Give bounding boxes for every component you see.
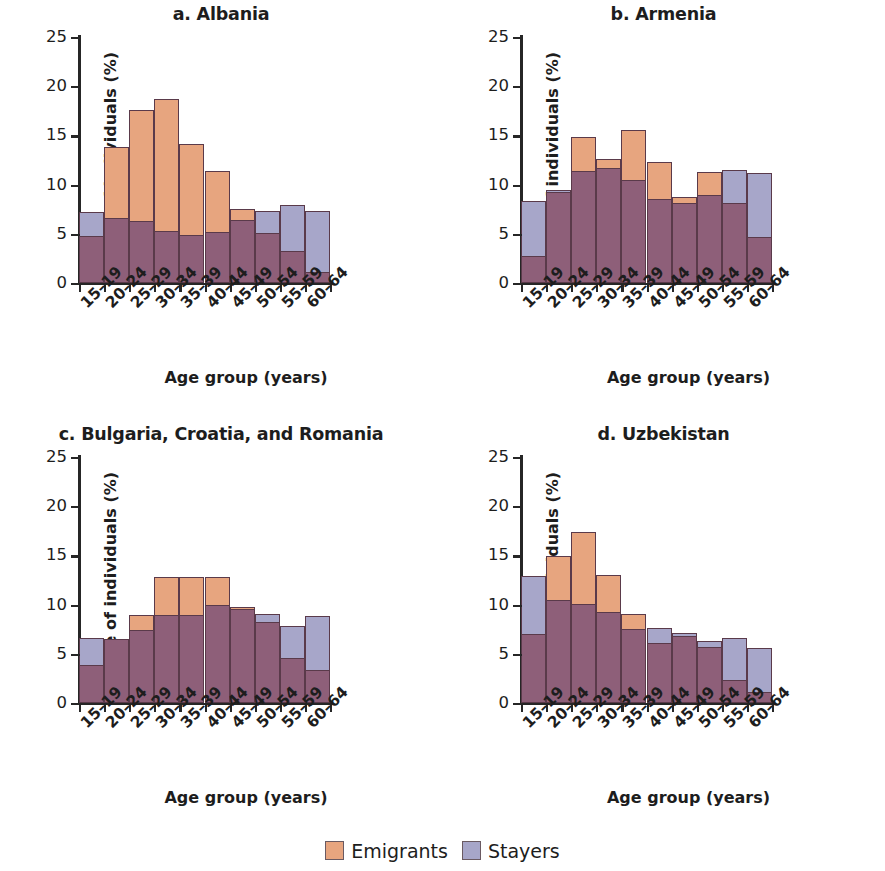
y-axis-tick xyxy=(513,185,522,187)
bars-container xyxy=(521,457,772,703)
y-axis-tick-label: 25 xyxy=(488,27,509,46)
y-axis-tick-label: 0 xyxy=(499,693,510,712)
x-axis-tick xyxy=(521,703,523,712)
panel-d: d. Uzbekistan Share of individuals (%) 0… xyxy=(442,420,885,830)
y-axis-tick xyxy=(71,555,80,557)
y-axis-tick-label: 0 xyxy=(57,693,68,712)
panel-a: a. Albania Share of individuals (%) 0510… xyxy=(0,0,442,420)
y-axis-title-wrap: Share of individuals (%) xyxy=(6,455,36,705)
legend: Emigrants Stayers xyxy=(0,830,885,871)
plot-area: 051015202515–1920–2425–2930–3435–3940–44… xyxy=(521,37,772,283)
y-axis-tick xyxy=(513,457,522,459)
legend-label-stayers: Stayers xyxy=(488,840,560,862)
legend-item-stayers: Stayers xyxy=(462,840,560,862)
x-axis-tick xyxy=(521,283,523,292)
panel-title: d. Uzbekistan xyxy=(442,424,885,444)
y-axis-title-wrap: Share of individuals (%) xyxy=(448,455,478,705)
y-axis-tick xyxy=(71,185,80,187)
y-axis-tick xyxy=(71,457,80,459)
legend-label-emigrants: Emigrants xyxy=(351,840,448,862)
bars-container xyxy=(79,37,330,283)
y-axis-tick-label: 0 xyxy=(499,273,510,292)
y-axis-tick-label: 20 xyxy=(488,496,509,515)
histogram-bar xyxy=(596,168,621,283)
x-axis-title: Age group (years) xyxy=(60,368,432,387)
y-axis-tick-label: 15 xyxy=(46,126,67,145)
x-axis-title: Age group (years) xyxy=(502,788,875,807)
legend-swatch-stayers-icon xyxy=(462,841,481,860)
y-axis-tick xyxy=(513,506,522,508)
histogram-bar xyxy=(521,634,546,703)
x-axis-tick xyxy=(79,703,81,712)
y-axis-tick xyxy=(71,234,80,236)
y-axis-title-wrap: Share of individuals (%) xyxy=(6,35,36,285)
y-axis-tick-label: 5 xyxy=(499,224,510,243)
y-axis-title-wrap: Share of individuals (%) xyxy=(448,35,478,285)
bars-container xyxy=(521,37,772,283)
panel-b: b. Armenia Share of individuals (%) 0510… xyxy=(442,0,885,420)
figure-grid: a. Albania Share of individuals (%) 0510… xyxy=(0,0,885,871)
y-axis-tick-label: 0 xyxy=(57,273,68,292)
y-axis-tick xyxy=(71,506,80,508)
y-axis-tick xyxy=(513,135,522,137)
y-axis-tick-label: 25 xyxy=(46,27,67,46)
y-axis-tick-label: 10 xyxy=(488,595,509,614)
y-axis-tick-label: 15 xyxy=(46,546,67,565)
y-axis-tick-label: 20 xyxy=(46,76,67,95)
y-axis-tick-label: 20 xyxy=(488,76,509,95)
y-axis-tick-label: 5 xyxy=(499,644,510,663)
panel-c: c. Bulgaria, Croatia, and Romania Share … xyxy=(0,420,442,830)
y-axis-tick-label: 10 xyxy=(46,175,67,194)
y-axis-tick-label: 5 xyxy=(57,644,68,663)
y-axis-tick-label: 5 xyxy=(57,224,68,243)
y-axis-tick xyxy=(513,37,522,39)
plot-area: 051015202515–1920–2425–2930–3435–3940–44… xyxy=(79,37,330,283)
y-axis-tick-label: 25 xyxy=(46,447,67,466)
y-axis-tick xyxy=(513,654,522,656)
panel-title: c. Bulgaria, Croatia, and Romania xyxy=(0,424,442,444)
y-axis-tick-label: 20 xyxy=(46,496,67,515)
y-axis-tick xyxy=(513,605,522,607)
plot-area: 051015202515–1920–2425–2930–3435–3940–44… xyxy=(521,457,772,703)
legend-swatch-emigrants-icon xyxy=(325,841,344,860)
y-axis-tick xyxy=(71,135,80,137)
x-axis-tick xyxy=(79,283,81,292)
x-axis-title: Age group (years) xyxy=(502,368,875,387)
panel-title: a. Albania xyxy=(0,4,442,24)
x-axis-title: Age group (years) xyxy=(60,788,432,807)
y-axis-tick-label: 15 xyxy=(488,126,509,145)
bars-container xyxy=(79,457,330,703)
legend-item-emigrants: Emigrants xyxy=(325,840,448,862)
y-axis-tick-label: 15 xyxy=(488,546,509,565)
y-axis-tick xyxy=(71,605,80,607)
plot-area: 051015202515–1920–2425–2930–3435–3940–44… xyxy=(79,457,330,703)
y-axis-tick xyxy=(71,654,80,656)
y-axis-tick xyxy=(71,86,80,88)
y-axis-tick xyxy=(71,37,80,39)
y-axis-tick-label: 10 xyxy=(488,175,509,194)
y-axis-tick-label: 10 xyxy=(46,595,67,614)
y-axis-tick xyxy=(513,86,522,88)
y-axis-tick-label: 25 xyxy=(488,447,509,466)
y-axis-tick xyxy=(513,234,522,236)
y-axis-tick xyxy=(513,555,522,557)
panel-title: b. Armenia xyxy=(442,4,885,24)
